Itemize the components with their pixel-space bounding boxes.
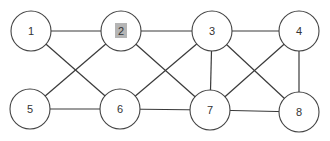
node-label: 8 [296,106,302,118]
node-label: 4 [296,25,302,37]
node-1: 1 [11,11,51,51]
node-label: 1 [28,25,34,37]
graph-diagram: 12345678 [0,0,330,141]
node-2: 2 [101,11,141,51]
node-label: 2 [118,25,124,37]
node-7: 7 [190,90,230,130]
node-label: 3 [209,25,215,37]
node-label: 7 [207,104,213,116]
node-6: 6 [100,89,140,129]
node-8: 8 [279,92,319,132]
node-label: 5 [27,103,33,115]
node-4: 4 [279,11,319,51]
edges-layer [30,31,299,112]
node-3: 3 [192,11,232,51]
node-label: 6 [117,103,123,115]
node-5: 5 [10,89,50,129]
